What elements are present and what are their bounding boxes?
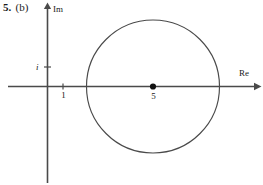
tick-label-real-one: 1 <box>59 90 68 100</box>
real-axis <box>8 83 262 90</box>
center-point-label: 5 <box>148 91 159 101</box>
imaginary-axis-label: Im <box>53 4 63 14</box>
real-axis-label: Re <box>239 68 249 78</box>
complex-plane-figure: 5.(b) Im Re i 1 5 <box>0 0 263 185</box>
real-axis-arrowhead-icon <box>254 83 262 90</box>
complex-plane-plot <box>0 0 263 185</box>
tick-label-imaginary-unit: i <box>36 62 39 72</box>
imaginary-axis <box>44 3 51 184</box>
imaginary-axis-arrowhead-icon <box>44 3 51 10</box>
center-dot <box>150 83 156 89</box>
